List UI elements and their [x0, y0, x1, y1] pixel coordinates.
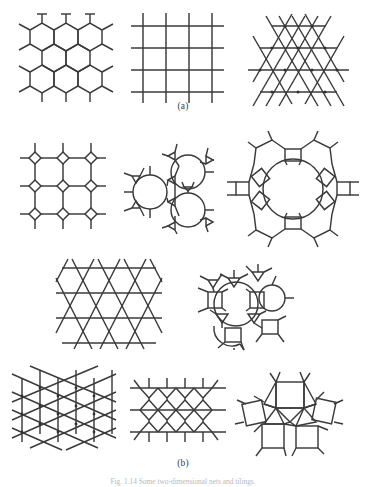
elongated-hexagon-net	[132, 376, 224, 446]
square-octagon-net	[22, 146, 104, 228]
square-triangle-ring-net-svg	[192, 258, 296, 350]
kagome-net-svg	[56, 262, 162, 346]
rhombic-net-svg	[14, 372, 116, 448]
square-octagon-net-svg	[22, 146, 104, 228]
triangular-net	[246, 18, 351, 98]
elongated-hexagon-net-svg	[132, 376, 224, 446]
triangular-net-svg	[246, 18, 351, 98]
large-ring-net-svg	[234, 134, 352, 244]
honeycomb-net-svg	[16, 18, 120, 98]
square-triangle-ring-net	[192, 258, 296, 350]
kagome-net	[56, 262, 162, 346]
triangle-dodecagon-net-svg	[124, 146, 214, 230]
figure-caption: Fig. 1.14 Some two-dimensional nets and …	[0, 475, 366, 487]
square-net-svg	[133, 18, 227, 98]
honeycomb-net	[16, 18, 120, 98]
figure-root: (a)	[0, 0, 366, 487]
triangular-net-vertices	[259, 25, 339, 94]
square-net	[133, 18, 227, 98]
panel-label-a: (a)	[0, 101, 366, 111]
large-ring-net	[234, 134, 352, 244]
rhombic-net	[14, 372, 116, 448]
square-triangle-net	[240, 374, 340, 448]
panel-label-b: (b)	[0, 458, 366, 468]
square-triangle-net-svg	[240, 374, 340, 448]
triangle-dodecagon-net	[124, 146, 214, 230]
